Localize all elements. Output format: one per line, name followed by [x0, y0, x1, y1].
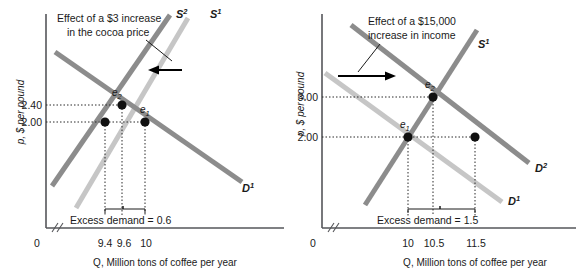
left-x-axis-title: Q, Million tons of coffee per year: [93, 257, 237, 268]
right-annotation-leader-line: [358, 44, 380, 72]
left-label-curve-s1: S1: [210, 7, 222, 20]
curve-d2-right: [351, 25, 529, 163]
right-shift-arrow: [338, 72, 396, 81]
left-xtick-10: 10: [140, 237, 152, 249]
left-annotation-line-2: in the cocoa price: [67, 26, 149, 38]
right-y-axis-title: p, $ per pound: [295, 71, 306, 137]
left-label-e1: e1: [140, 104, 150, 118]
right-equilibrium-point-e1: [403, 132, 412, 141]
left-xtick-96: 9.6: [117, 237, 132, 249]
left-excess-demand-brace: [105, 206, 145, 213]
right-excess-demand-point: [470, 132, 479, 141]
panel-demand-shift: e2 e1 S1 D2 D1 Effect of a $15,000 incre…: [290, 0, 580, 273]
curve-s1: [76, 18, 188, 208]
right-label-e2: e2: [425, 79, 436, 93]
curve-s1-right: [365, 30, 477, 205]
right-xtick-105: 10.5: [424, 237, 445, 249]
right-equilibrium-point-e2: [428, 92, 437, 101]
right-xtick-10: 10: [402, 237, 414, 249]
left-excess-demand-label: Excess demand = 0.6: [70, 214, 171, 226]
left-label-curve-d1: D1: [242, 181, 254, 194]
right-panel-plot: e2 e1 S1 D2 D1 Effect of a $15,000 incre…: [290, 0, 580, 273]
left-y-axis-title: p, $ per pound: [15, 79, 26, 145]
right-annotation-line-2: increase in income: [368, 29, 456, 41]
left-panel-plot: e2 e1 S2 S1 D1 Effect of a $3 increase i…: [0, 0, 290, 273]
right-excess-demand-label: Excess demand = 1.5: [377, 214, 478, 226]
right-label-curve-d1: D1: [508, 194, 520, 207]
left-equilibrium-point-e2: [117, 100, 126, 109]
curve-s2: [52, 15, 170, 186]
right-x-axis-title: Q, Million tons of coffee per year: [403, 257, 547, 268]
right-excess-demand-brace: [408, 206, 475, 213]
right-origin-label: 0: [310, 237, 316, 249]
right-label-curve-d2: D2: [535, 161, 548, 174]
figure-container: e2 e1 S2 S1 D1 Effect of a $3 increase i…: [0, 0, 580, 273]
left-origin-label: 0: [34, 237, 40, 249]
left-equilibrium-point-e1: [140, 117, 149, 126]
left-xtick-94: 9.4: [98, 237, 113, 249]
left-excess-demand-point: [100, 117, 109, 126]
panel-supply-shift: e2 e1 S2 S1 D1 Effect of a $3 increase i…: [0, 0, 290, 273]
right-annotation-line-1: Effect of a $15,000: [368, 15, 456, 27]
right-label-curve-s1: S1: [478, 37, 490, 50]
left-annotation-line-1: Effect of a $3 increase: [57, 12, 161, 24]
right-xtick-115: 11.5: [466, 237, 486, 249]
